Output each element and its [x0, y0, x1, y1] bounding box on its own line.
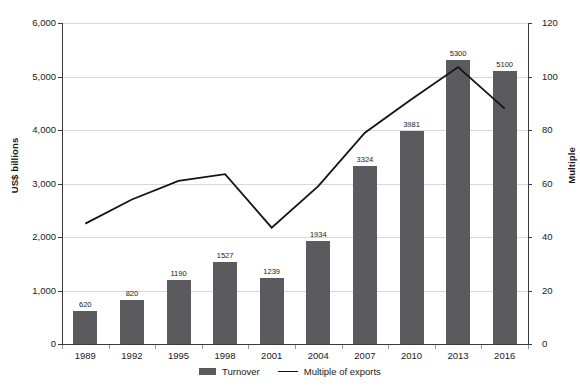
legend-label-multiple-of-exports: Multiple of exports — [304, 366, 381, 377]
x-axis-tick-mark — [435, 345, 436, 349]
x-axis-tick-label: 1992 — [109, 350, 155, 361]
x-axis-tick-label: 1995 — [156, 350, 202, 361]
x-axis-tick-label: 2001 — [249, 350, 295, 361]
legend-item-turnover: Turnover — [199, 366, 260, 377]
x-axis-tick-label: 1998 — [202, 350, 248, 361]
x-axis-tick-mark — [481, 345, 482, 349]
x-axis-tick-mark — [109, 345, 110, 349]
x-axis-tick-label: 2007 — [342, 350, 388, 361]
x-axis-tick-mark — [528, 345, 529, 349]
line-swatch-icon — [278, 371, 298, 372]
x-axis-tick-mark — [388, 345, 389, 349]
legend-item-multiple-of-exports: Multiple of exports — [278, 366, 381, 377]
x-axis-tick-mark — [62, 345, 63, 349]
x-axis-tick-label: 2013 — [435, 350, 481, 361]
x-axis-tick-mark — [295, 345, 296, 349]
bar-swatch-icon — [199, 368, 216, 375]
x-axis-tick-label: 2016 — [482, 350, 528, 361]
x-axis-tick-label: 2010 — [389, 350, 435, 361]
x-axis-tick-mark — [202, 345, 203, 349]
chart-legend: Turnover Multiple of exports — [0, 366, 580, 377]
x-axis-tick-mark — [342, 345, 343, 349]
x-axis-tick-mark — [248, 345, 249, 349]
chart-container: US$ billions Multiple 01,0002,0003,0004,… — [0, 0, 580, 391]
legend-label-turnover: Turnover — [222, 366, 260, 377]
x-axis-tick-mark — [155, 345, 156, 349]
x-axis-tick-label: 2004 — [295, 350, 341, 361]
x-axis-tick-label: 1989 — [62, 350, 108, 361]
line-series-multiple-of-exports — [0, 0, 580, 391]
